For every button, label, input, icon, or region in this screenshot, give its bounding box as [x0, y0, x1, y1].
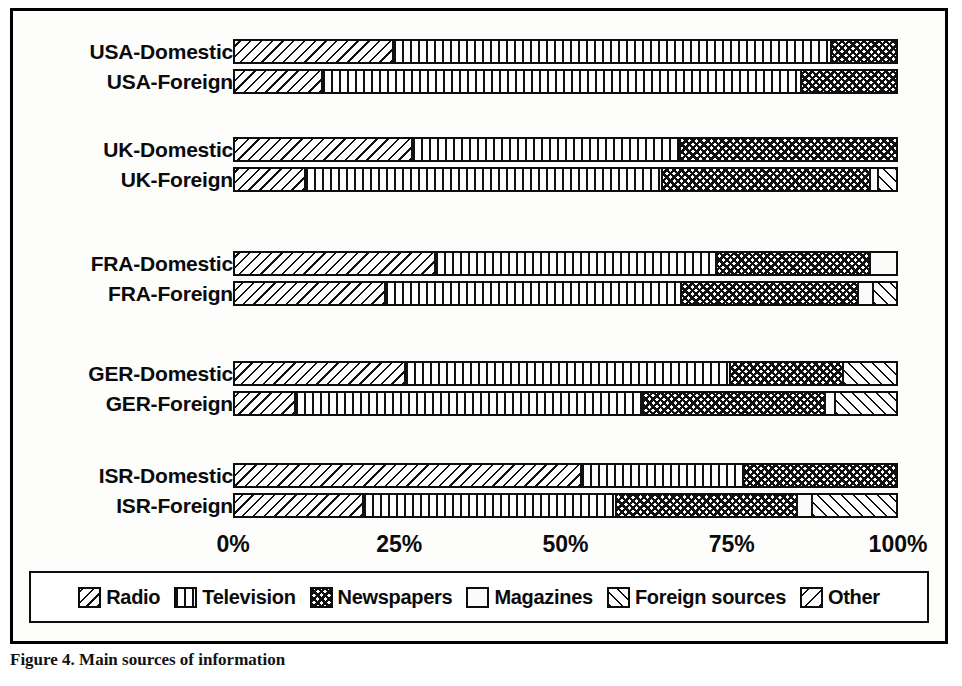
vertical-lines-swatch	[174, 587, 197, 608]
bar-segment-television	[294, 393, 642, 414]
bar-segment-television	[304, 169, 661, 190]
legend-label: Television	[202, 586, 295, 609]
legend-item: Other	[800, 586, 880, 609]
bar-row: ISR-Domestic	[13, 463, 945, 488]
bar-segment-magazines	[869, 253, 896, 274]
bar-track	[233, 137, 898, 162]
bar-track	[233, 391, 898, 416]
bar-row-label: USA-Foreign	[0, 69, 233, 94]
bar-row-label: USA-Domestic	[0, 39, 233, 64]
bar-segment-newspapers	[642, 393, 824, 414]
bar-row: GER-Foreign	[13, 391, 945, 416]
bar-segment-newspapers	[661, 169, 869, 190]
legend-item: Foreign sources	[607, 586, 786, 609]
bar-segment-radio	[235, 169, 304, 190]
bar-segment-television	[384, 283, 679, 304]
bar-segment-magazines	[869, 169, 877, 190]
bar-segment-television	[404, 363, 729, 384]
bar-segment-newspapers	[679, 139, 896, 160]
legend-item: Radio	[78, 586, 160, 609]
bar-segment-foreign-sources	[842, 363, 896, 384]
bar-row: USA-Foreign	[13, 69, 945, 94]
bar-segment-newspapers	[715, 253, 869, 274]
bar-segment-radio	[235, 41, 392, 62]
bar-row-label: FRA-Foreign	[0, 281, 233, 306]
bar-segment-television	[321, 71, 800, 92]
bar-track	[233, 493, 898, 518]
bar-segment-television	[411, 139, 679, 160]
bar-row: FRA-Foreign	[13, 281, 945, 306]
blank-swatch	[466, 587, 489, 608]
bar-row-label: UK-Domestic	[0, 137, 233, 162]
bar-row: ISR-Foreign	[13, 493, 945, 518]
legend-label: Foreign sources	[635, 586, 786, 609]
bar-segment-newspapers	[800, 71, 896, 92]
bar-segment-magazines	[857, 283, 872, 304]
legend-label: Newspapers	[338, 586, 453, 609]
x-tick-label: 75%	[709, 531, 755, 558]
bar-segment-foreign-sources	[834, 393, 896, 414]
legend-label: Radio	[106, 586, 160, 609]
forward-hatch-swatch	[607, 587, 630, 608]
bar-row-label: ISR-Foreign	[0, 493, 233, 518]
bar-track	[233, 69, 898, 94]
bar-segment-magazines	[824, 393, 834, 414]
bar-track	[233, 39, 898, 64]
figure-caption: Figure 4. Main sources of information	[10, 650, 948, 676]
sparse-hatch-swatch	[800, 587, 823, 608]
bar-row: UK-Foreign	[13, 167, 945, 192]
x-tick-label: 0%	[216, 531, 249, 558]
bar-row-label: GER-Foreign	[0, 391, 233, 416]
legend-item: Television	[174, 586, 295, 609]
x-tick-label: 100%	[869, 531, 928, 558]
bar-segment-radio	[235, 71, 321, 92]
bar-segment-newspapers	[729, 363, 841, 384]
bar-segment-foreign-sources	[877, 169, 896, 190]
bar-row: UK-Domestic	[13, 137, 945, 162]
bar-segment-television	[392, 41, 830, 62]
bar-row-label: GER-Domestic	[0, 361, 233, 386]
bar-segment-radio	[235, 253, 434, 274]
bar-row-label: UK-Foreign	[0, 167, 233, 192]
diagonal-hatch-swatch	[78, 587, 101, 608]
bar-segment-radio	[235, 363, 404, 384]
bar-segment-foreign-sources	[872, 283, 896, 304]
chart-plot-area: USA-DomesticUSA-ForeignUK-DomesticUK-For…	[13, 11, 945, 556]
bar-row: FRA-Domestic	[13, 251, 945, 276]
figure-frame: USA-DomesticUSA-ForeignUK-DomesticUK-For…	[10, 8, 948, 644]
bar-segment-newspapers	[742, 465, 896, 486]
x-axis: 0%25%50%75%100%	[233, 531, 898, 565]
bar-segment-newspapers	[830, 41, 896, 62]
bar-segment-television	[580, 465, 742, 486]
bar-segment-newspapers	[680, 283, 857, 304]
bar-row: USA-Domestic	[13, 39, 945, 64]
bar-track	[233, 251, 898, 276]
x-tick-label: 25%	[376, 531, 422, 558]
bar-row-label: ISR-Domestic	[0, 463, 233, 488]
legend-label: Other	[828, 586, 880, 609]
bar-segment-radio	[235, 139, 411, 160]
cross-hatch-swatch	[310, 587, 333, 608]
legend-label: Magazines	[494, 586, 592, 609]
bar-segment-radio	[235, 465, 580, 486]
bar-track	[233, 361, 898, 386]
bar-segment-foreign-sources	[811, 495, 896, 516]
bar-segment-radio	[235, 393, 294, 414]
bar-track	[233, 281, 898, 306]
bar-segment-television	[434, 253, 715, 274]
bar-segment-radio	[235, 283, 384, 304]
legend-item: Newspapers	[310, 586, 453, 609]
bar-track	[233, 167, 898, 192]
legend-item: Magazines	[466, 586, 592, 609]
bar-segment-television	[362, 495, 615, 516]
bar-segment-radio	[235, 495, 362, 516]
bar-track	[233, 463, 898, 488]
bar-row: GER-Domestic	[13, 361, 945, 386]
chart-legend: RadioTelevisionNewspapersMagazinesForeig…	[29, 571, 929, 623]
bar-segment-magazines	[796, 495, 811, 516]
x-tick-label: 50%	[542, 531, 588, 558]
bar-row-label: FRA-Domestic	[0, 251, 233, 276]
bar-segment-newspapers	[615, 495, 796, 516]
